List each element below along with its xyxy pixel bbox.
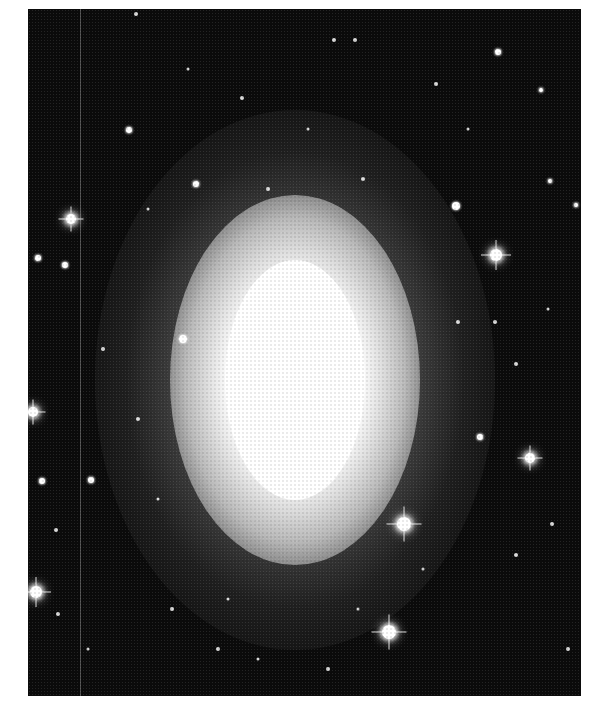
star (332, 38, 336, 42)
diffraction-spike (33, 400, 34, 425)
star (88, 477, 94, 483)
star (566, 647, 570, 651)
star (134, 12, 138, 16)
star (353, 38, 357, 42)
star (179, 335, 187, 343)
star (548, 179, 552, 183)
star (257, 658, 260, 661)
star (456, 320, 460, 324)
star (307, 128, 310, 131)
diffraction-spike (404, 507, 405, 542)
star (187, 68, 190, 71)
star (87, 648, 90, 651)
diffraction-spike (71, 207, 72, 232)
star (35, 255, 41, 261)
star (493, 320, 497, 324)
star (126, 127, 132, 133)
diffraction-spike (36, 577, 37, 607)
star (193, 181, 199, 187)
diffraction-spike (28, 412, 46, 413)
galaxy-photograph (28, 9, 581, 696)
star (477, 434, 483, 440)
star (452, 202, 460, 210)
star (54, 528, 58, 532)
star (434, 82, 438, 86)
star (266, 187, 270, 191)
star (147, 208, 150, 211)
diffraction-spike (530, 446, 531, 471)
star (514, 553, 518, 557)
star (514, 362, 518, 366)
star (227, 598, 230, 601)
star (361, 177, 365, 181)
star (101, 347, 105, 351)
star (574, 203, 578, 207)
star (422, 568, 425, 571)
diffraction-spike (389, 615, 390, 650)
star (539, 88, 543, 92)
star (136, 417, 140, 421)
diffraction-spike (28, 592, 51, 593)
star (357, 608, 360, 611)
galaxy-core (225, 260, 365, 500)
star (550, 522, 554, 526)
star (326, 667, 330, 671)
scan-artifact-line (80, 9, 81, 696)
star (467, 128, 470, 131)
star (56, 612, 60, 616)
star (62, 262, 68, 268)
star (240, 96, 244, 100)
star (157, 498, 160, 501)
star (216, 647, 220, 651)
star (547, 308, 550, 311)
star (170, 607, 174, 611)
star (495, 49, 501, 55)
star (39, 478, 45, 484)
diffraction-spike (496, 240, 497, 270)
